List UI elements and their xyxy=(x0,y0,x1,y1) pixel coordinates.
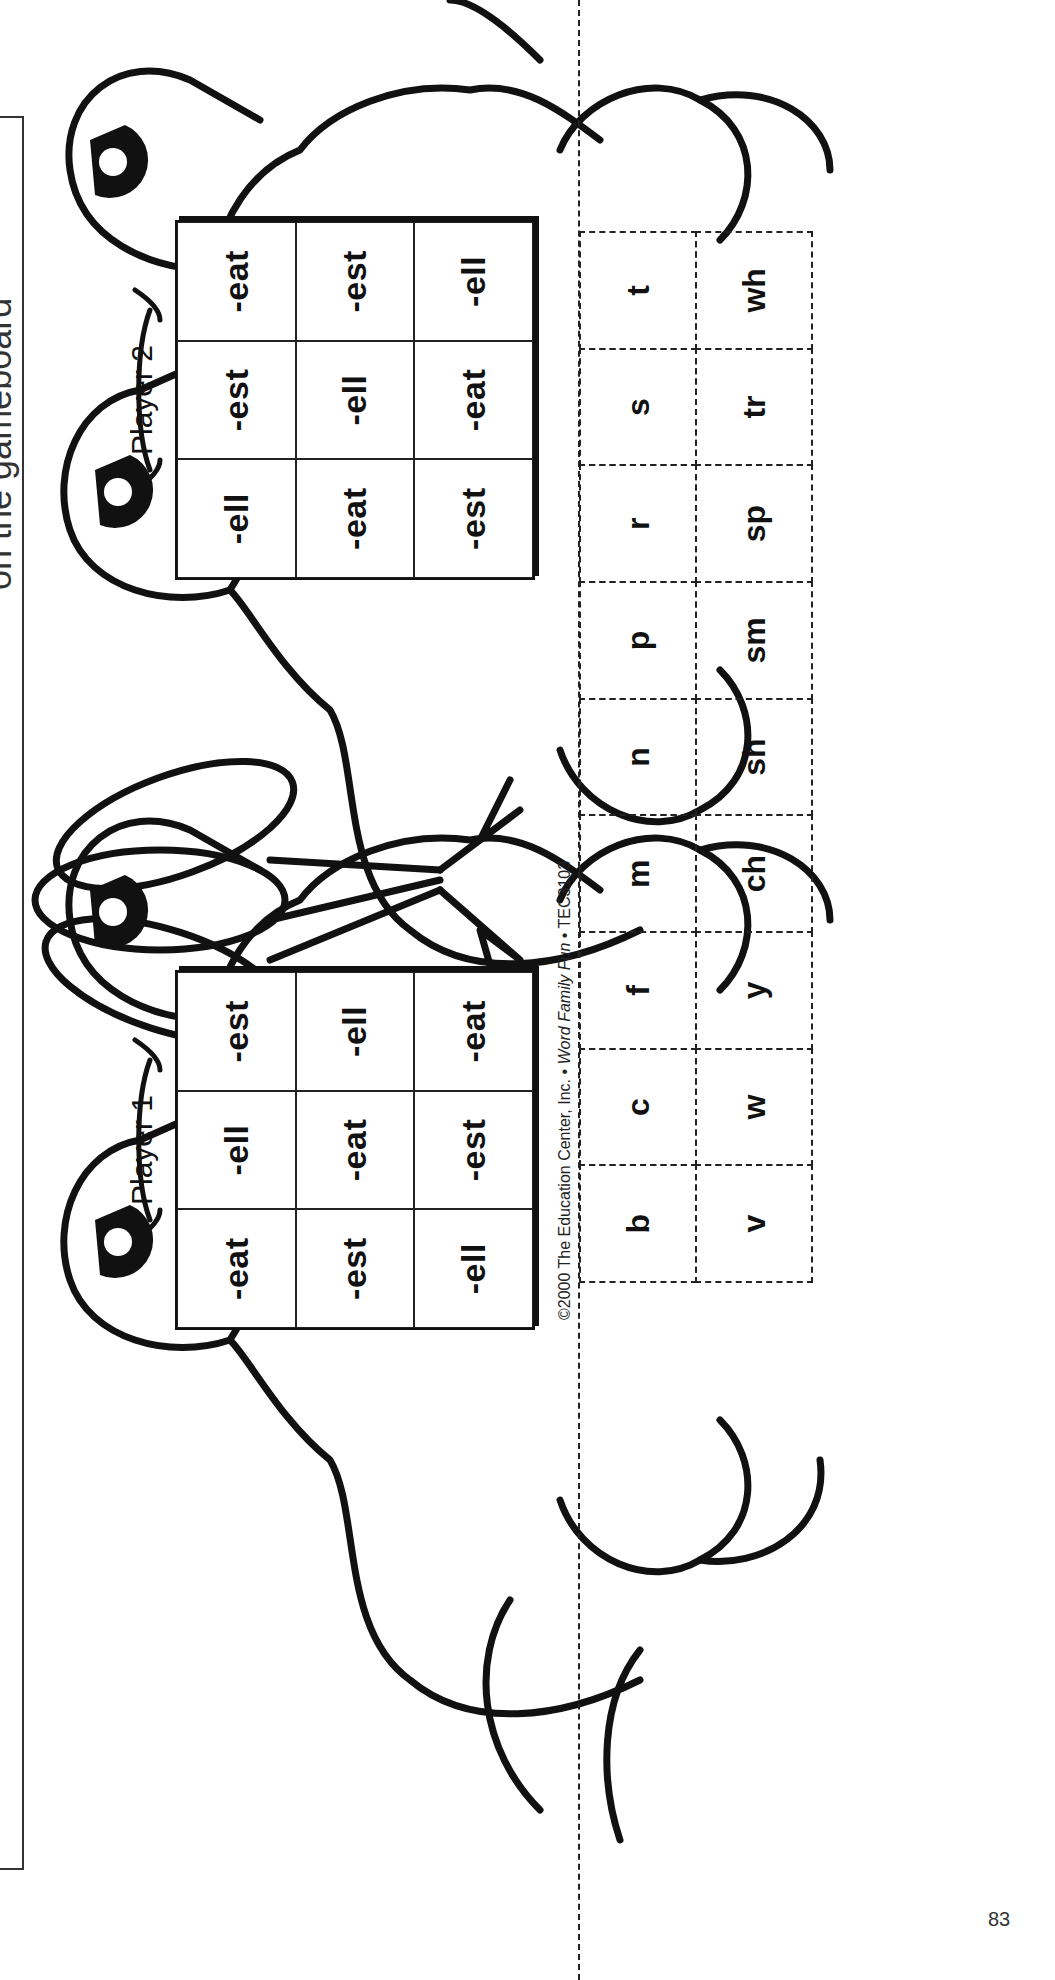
player-2-gameboard: -ell -est -eat -eat -ell -est -est -eat … xyxy=(175,220,535,580)
board-cell[interactable]: -ell xyxy=(296,341,415,460)
rotated-landscape-content: on the gameboard xyxy=(0,0,1055,1980)
copyright-suffix: • TEC3103 xyxy=(556,861,573,943)
board-cell[interactable]: -est xyxy=(414,459,533,578)
letter-card[interactable]: sp xyxy=(695,464,813,583)
letter-card[interactable]: sh xyxy=(695,698,813,817)
board-cell[interactable]: -eat xyxy=(414,972,533,1091)
player-1-label: Player 1 xyxy=(125,1095,159,1205)
letter-card[interactable]: r xyxy=(579,464,697,583)
letter-card[interactable]: f xyxy=(579,931,697,1050)
letter-card[interactable]: p xyxy=(579,581,697,700)
letter-card[interactable]: ch xyxy=(695,814,813,933)
copyright-prefix: ©2000 The Education Center, Inc. • xyxy=(556,1065,573,1320)
letter-card[interactable]: n xyxy=(579,698,697,817)
player-1-gameboard: -eat -ell -est -est -eat -ell -ell -est … xyxy=(175,970,535,1330)
board-cell[interactable]: -est xyxy=(414,1091,533,1210)
frog-eye-highlights xyxy=(99,148,132,1256)
worksheet-page: on the gameboard xyxy=(0,0,1055,1980)
board-cell[interactable]: -eat xyxy=(296,1091,415,1210)
letter-card[interactable]: s xyxy=(579,348,697,467)
letter-cards: b c f m n p r s t v w y ch sh sm sp tr w… xyxy=(580,232,812,1282)
board-cell[interactable]: -est xyxy=(296,222,415,341)
letter-card[interactable]: c xyxy=(579,1048,697,1167)
page-number: 83 xyxy=(988,1908,1010,1931)
book-title: Word Family Fun xyxy=(556,943,573,1065)
board-cell[interactable]: -est xyxy=(296,1209,415,1328)
letter-card[interactable]: w xyxy=(695,1048,813,1167)
board-cell[interactable]: -ell xyxy=(414,222,533,341)
board-cell[interactable]: -ell xyxy=(414,1209,533,1328)
board-cell[interactable]: -est xyxy=(177,341,296,460)
copyright-line: ©2000 The Education Center, Inc. • Word … xyxy=(556,861,574,1320)
board-cell[interactable]: -eat xyxy=(177,222,296,341)
letter-card[interactable]: t xyxy=(579,231,697,350)
player-2-label: Player 2 xyxy=(125,345,159,455)
letter-card[interactable]: wh xyxy=(695,231,813,350)
board-cell[interactable]: -eat xyxy=(296,459,415,578)
letter-card[interactable]: m xyxy=(579,814,697,933)
letter-card[interactable]: tr xyxy=(695,348,813,467)
board-cell[interactable]: -eat xyxy=(177,1209,296,1328)
board-cell[interactable]: -eat xyxy=(414,341,533,460)
board-cell[interactable]: -est xyxy=(177,972,296,1091)
letter-card[interactable]: sm xyxy=(695,581,813,700)
board-cell[interactable]: -ell xyxy=(177,1091,296,1210)
letter-card[interactable]: v xyxy=(695,1164,813,1283)
board-cell[interactable]: -ell xyxy=(296,972,415,1091)
letter-card[interactable]: y xyxy=(695,931,813,1050)
letter-card[interactable]: b xyxy=(579,1164,697,1283)
board-cell[interactable]: -ell xyxy=(177,459,296,578)
